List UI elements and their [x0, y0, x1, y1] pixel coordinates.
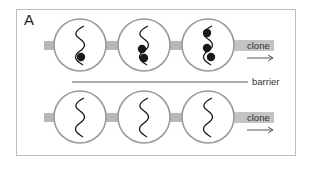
bead-icon [203, 29, 211, 37]
arrow-right-icon [247, 127, 273, 133]
connector-icon [169, 41, 183, 50]
connector-icon [169, 113, 183, 122]
cell-bottom-2 [118, 91, 170, 143]
arrow-right-icon [247, 55, 273, 61]
barrier: barrier [72, 76, 279, 87]
bead-icon [203, 44, 211, 52]
cell-bottom-1 [54, 91, 106, 143]
bead-icon [140, 54, 148, 62]
cell-bottom-3 [182, 91, 234, 143]
clone-label-top: clone [247, 40, 270, 51]
bead-icon [207, 53, 215, 61]
connector-icon [44, 41, 54, 50]
bead-icon [77, 53, 85, 61]
barrier-label: barrier [252, 76, 279, 87]
bottom-row: clone [44, 91, 274, 143]
bead-icon [138, 45, 146, 53]
top-row: clone [44, 19, 274, 71]
connector-icon [105, 113, 119, 122]
cell-top-1 [54, 19, 106, 71]
connector-icon [44, 113, 54, 122]
connector-icon [105, 41, 119, 50]
clone-label-bottom: clone [247, 112, 270, 123]
cell-top-3 [182, 19, 234, 71]
cell-top-2 [118, 19, 170, 71]
diagram-canvas: clone barrier clone [0, 0, 312, 173]
